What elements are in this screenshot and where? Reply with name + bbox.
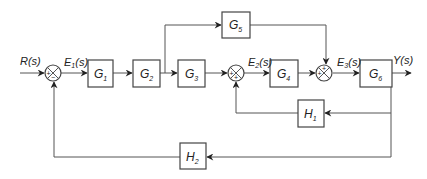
block-g6: G6 xyxy=(360,60,392,87)
summing-junction-2: + + xyxy=(228,65,244,81)
block-h2: H2 xyxy=(180,143,206,169)
summing-junction-3: + + xyxy=(316,65,332,82)
sign-plus: + xyxy=(230,70,234,77)
label-e2: E2(s) xyxy=(248,56,272,69)
block-g2: G2 xyxy=(133,60,160,87)
block-diagram: + − + + + + G1 G2 G3 G4 G5 G6 xyxy=(0,0,427,179)
wire-h2-s1 xyxy=(54,82,180,157)
summing-junction-1: + − xyxy=(45,65,61,81)
block-h1: H1 xyxy=(298,100,324,127)
sign-plus: + xyxy=(47,70,51,77)
sign-plus: + xyxy=(318,70,322,77)
wires xyxy=(20,25,411,157)
block-g3: G3 xyxy=(178,60,205,87)
label-input: R(s) xyxy=(20,55,41,67)
sign-minus: − xyxy=(51,74,55,81)
label-output: Y(s) xyxy=(393,54,414,66)
block-g4: G4 xyxy=(270,60,298,87)
label-e1: E1(s) xyxy=(64,56,88,69)
block-g1: G1 xyxy=(88,60,113,87)
sign-plus: + xyxy=(322,65,326,72)
label-e3: E3(s) xyxy=(337,56,361,69)
block-g5: G5 xyxy=(222,12,250,38)
sign-plus: + xyxy=(234,74,238,81)
